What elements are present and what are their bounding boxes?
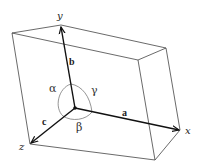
edge: [12, 33, 138, 60]
axis-label-x: x: [185, 125, 191, 136]
edge: [138, 60, 155, 160]
axis-label-y: y: [56, 10, 63, 21]
unit-cell-diagram: y x z b a c α γ β: [0, 0, 202, 168]
edge: [30, 144, 155, 160]
axis-label-z: z: [18, 141, 25, 152]
origin-point: [73, 106, 77, 110]
edge: [155, 130, 180, 160]
vector-a: [75, 108, 179, 130]
alpha-arc: [58, 84, 71, 116]
edge: [166, 48, 180, 130]
vector-label-c: c: [42, 116, 47, 127]
edge: [12, 25, 61, 33]
angle-arcs: [58, 84, 92, 119]
vector-label-a: a: [122, 107, 127, 118]
vector-b: [61, 27, 75, 108]
edge: [138, 48, 166, 60]
vector-c: [31, 108, 75, 143]
edge: [12, 33, 30, 144]
angle-label-gamma: γ: [91, 84, 98, 97]
edge: [61, 25, 166, 48]
vector-label-b: b: [69, 56, 75, 67]
beta-arc: [63, 112, 92, 119]
angle-label-alpha: α: [49, 82, 57, 95]
angle-label-beta: β: [76, 121, 82, 134]
